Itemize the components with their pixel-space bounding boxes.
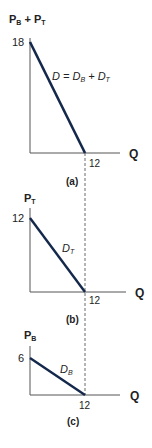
- panel-c-xlabel: Q: [130, 389, 139, 403]
- panel-a-ytick: 18: [12, 36, 24, 48]
- panel-c-ylabel: PB: [24, 329, 36, 342]
- panel-c-caption: (c): [67, 416, 79, 427]
- panel-a: PB + PT 18 D = DB + DT Q 12 (a): [9, 13, 138, 187]
- panel-b-curve-label: DT: [62, 242, 75, 255]
- panel-b-ylabel: PT: [24, 192, 36, 205]
- panel-c: PB 6 DB Q 12 (c): [18, 329, 139, 427]
- panel-b-demand-line: [30, 218, 85, 292]
- panel-c-ytick: 6: [18, 352, 24, 364]
- panel-a-caption: (a): [66, 176, 78, 187]
- panel-c-xtick: 12: [79, 400, 91, 411]
- panel-a-demand-line: [30, 42, 85, 153]
- panel-a-curve-label: D = DB + DT: [52, 70, 111, 83]
- panel-a-xlabel: Q: [129, 147, 138, 161]
- panel-b-xlabel: Q: [135, 286, 144, 300]
- panel-b: PT 12 DT Q 12 (b): [12, 192, 144, 325]
- panel-a-ylabel: PB + PT: [9, 13, 46, 26]
- panel-b-xtick: 12: [89, 295, 101, 306]
- panel-c-curve-label: DB: [60, 363, 73, 376]
- demand-charts: PB + PT 18 D = DB + DT Q 12 (a) PT 12 DT…: [0, 0, 152, 448]
- panel-b-ytick: 12: [12, 212, 24, 224]
- panel-a-xtick: 12: [89, 158, 101, 169]
- panel-b-caption: (b): [66, 314, 79, 325]
- panel-c-demand-line: [30, 358, 85, 395]
